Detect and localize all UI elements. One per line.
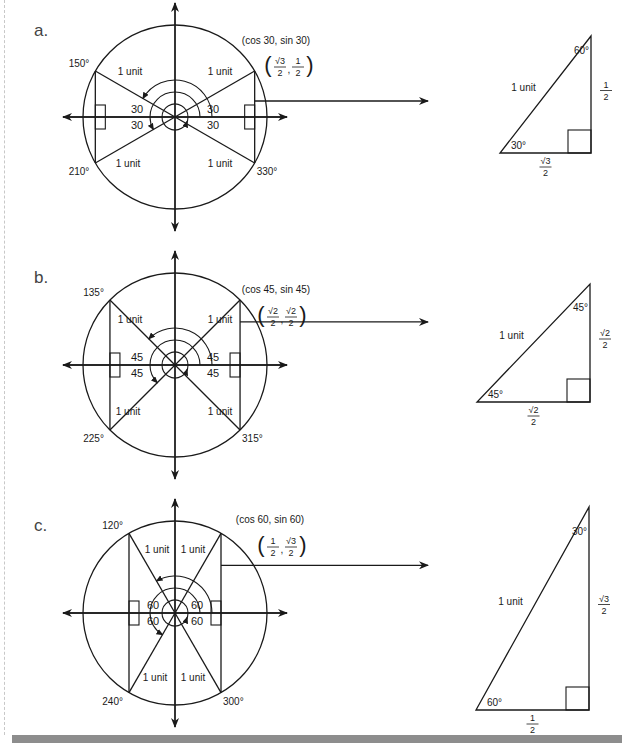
radius-label-q1: 1 unit — [181, 544, 206, 555]
triangle-base-angle: 30° — [511, 140, 526, 151]
angle-arc-q2 — [143, 80, 212, 117]
angle-label-q3: 60 — [147, 615, 159, 627]
triangle-base-angle: 45° — [488, 389, 503, 400]
dashed-margin-line — [4, 0, 5, 735]
angle-label-q4: 45 — [207, 367, 219, 379]
quadrant-angle-q4: 300° — [223, 696, 244, 707]
coord-y-fraction: 12 — [292, 56, 304, 78]
angle-label-q1: 30 — [207, 103, 219, 115]
triangle-top-angle: 30° — [572, 526, 587, 537]
quadrant-angle-q2: 135° — [83, 287, 104, 298]
triangle-outline — [476, 507, 589, 710]
bottom-gray-bar — [12, 735, 622, 743]
triangle-base-length: √32 — [540, 156, 552, 178]
coord-y-fraction: √22 — [285, 306, 297, 328]
angle-arc-q3 — [150, 365, 157, 383]
radius-label-q4: 1 unit — [181, 672, 206, 683]
triangle-base-angle: 60° — [487, 697, 502, 708]
coord-x-fraction: √22 — [267, 306, 279, 328]
angle-label-q2: 60 — [147, 599, 159, 611]
triangle-height-length: 12 — [600, 80, 612, 102]
triangle-height-length-denominator: 2 — [602, 340, 607, 350]
diagram-letter: b. — [34, 268, 48, 287]
triangle-hypotenuse-label: 1 unit — [499, 330, 524, 341]
coord-y-fraction-numerator: 1 — [295, 56, 300, 66]
triangle-base-length: √22 — [528, 405, 540, 427]
triangle-top-angle: 60° — [574, 45, 589, 56]
triangle-right-angle-marker — [566, 687, 589, 710]
radius-label-q4: 1 unit — [208, 406, 233, 417]
triangle-height-length: √22 — [599, 328, 611, 350]
coordinate-label: (cos 45, sin 45) — [242, 284, 310, 295]
coord-y-fraction-denominator: 2 — [288, 318, 293, 328]
triangle-top-angle: 45° — [573, 302, 588, 313]
triangle-base-length-numerator: √3 — [541, 156, 551, 166]
triangle-height-length-denominator: 2 — [601, 606, 606, 616]
triangle-height-length-numerator: √3 — [599, 594, 609, 604]
coord-y-fraction: √32 — [285, 536, 297, 558]
coord-x-fraction-numerator: √3 — [275, 56, 285, 66]
radius-label-q3: 1 unit — [143, 672, 168, 683]
paren-left: ( — [257, 302, 265, 327]
coordinate-value: (12,√32) — [257, 532, 306, 558]
triangle-height-length-numerator: √2 — [600, 328, 610, 338]
diagram-letter: c. — [34, 516, 47, 535]
coord-y-fraction-denominator: 2 — [295, 68, 300, 78]
quadrant-angle-q4: 315° — [242, 433, 263, 444]
trig-unit-circle-figure: a.303030301 unit1 unit1 unit1 unit150°21… — [0, 0, 622, 743]
triangle-hypotenuse-label: 1 unit — [498, 596, 523, 607]
comma: , — [281, 544, 284, 555]
angle-label-q3: 45 — [131, 367, 143, 379]
comma: , — [281, 314, 284, 325]
radius-label-q3: 1 unit — [116, 406, 141, 417]
coord-x-fraction-numerator: √2 — [268, 306, 278, 316]
angle-label-q2: 45 — [131, 351, 143, 363]
coord-y-fraction-numerator: √3 — [286, 536, 296, 546]
coord-x-fraction: 12 — [267, 536, 279, 558]
diagram-b: b.454545451 unit1 unit1 unit1 unit135°22… — [34, 251, 611, 479]
paren-left: ( — [264, 52, 272, 77]
radius-label-q2: 1 unit — [145, 544, 170, 555]
right-triangle: 1 unit45°45°√22√22 — [477, 284, 611, 427]
comma: , — [288, 64, 291, 75]
right-triangle: 1 unit60°30°12√32 — [476, 507, 610, 735]
triangle-hypotenuse-label: 1 unit — [511, 82, 536, 93]
radius-label-q1: 1 unit — [208, 66, 233, 77]
paren-right: ) — [299, 302, 306, 327]
triangle-base-length-denominator: 2 — [531, 417, 536, 427]
diagram-c: c.606060601 unit1 unit1 unit1 unit120°24… — [34, 499, 610, 735]
triangle-right-angle-marker — [567, 379, 590, 402]
triangle-height-length-denominator: 2 — [603, 92, 608, 102]
diagram-a: a.303030301 unit1 unit1 unit1 unit150°21… — [34, 3, 612, 231]
coordinate-value: (√22,√22) — [257, 302, 306, 328]
coord-x-fraction-numerator: 1 — [270, 536, 275, 546]
coordinate-label: (cos 60, sin 60) — [236, 514, 304, 525]
angle-label-q2: 30 — [131, 103, 143, 115]
quadrant-angle-q2: 120° — [102, 520, 123, 531]
triangle-height-length-numerator: 1 — [603, 80, 608, 90]
quadrant-angle-q2: 150° — [69, 58, 90, 69]
diagram-letter: a. — [34, 21, 48, 40]
triangle-base-length-denominator: 2 — [543, 168, 548, 178]
radius-label-q4: 1 unit — [208, 158, 233, 169]
angle-arc-q3 — [150, 117, 153, 130]
radius-label-q2: 1 unit — [118, 314, 143, 325]
quadrant-angle-q3: 225° — [83, 433, 104, 444]
coord-y-fraction-numerator: √2 — [286, 306, 296, 316]
coordinate-label: (cos 30, sin 30) — [242, 35, 310, 46]
radius-label-q1: 1 unit — [208, 314, 233, 325]
diagram-canvas: a.303030301 unit1 unit1 unit1 unit150°21… — [0, 0, 622, 743]
triangle-base-length: 12 — [527, 713, 539, 735]
right-triangle: 1 unit30°60°√3212 — [500, 36, 612, 178]
quadrant-angle-q3: 210° — [69, 166, 90, 177]
triangle-right-angle-marker — [568, 130, 591, 153]
triangle-base-length-numerator: 1 — [530, 713, 535, 723]
coord-y-fraction-denominator: 2 — [288, 548, 293, 558]
triangle-base-length-denominator: 2 — [530, 725, 535, 735]
quadrant-angle-q3: 240° — [102, 696, 123, 707]
coordinate-value: (√32,12) — [264, 52, 313, 78]
angle-label-q3: 30 — [131, 119, 143, 131]
angle-label-q1: 45 — [207, 351, 219, 363]
coord-x-fraction-denominator: 2 — [277, 68, 282, 78]
paren-right: ) — [306, 52, 313, 77]
